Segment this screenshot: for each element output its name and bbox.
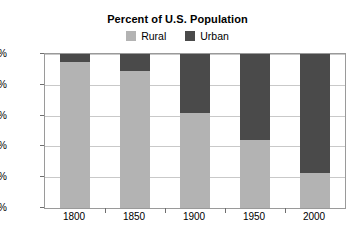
legend-item-urban[interactable]: Urban bbox=[185, 31, 229, 42]
stacked-bar[interactable] bbox=[60, 54, 90, 208]
bar-group-1850[interactable] bbox=[105, 54, 165, 208]
bar-segment-urban[interactable] bbox=[180, 54, 210, 113]
bar-group-1900[interactable] bbox=[165, 54, 225, 208]
y-tick-label: 20% bbox=[0, 171, 7, 182]
bar-segment-urban[interactable] bbox=[60, 54, 90, 62]
chart-container: Percent of U.S. Population Rural Urban 0… bbox=[0, 0, 355, 237]
stacked-bar[interactable] bbox=[120, 54, 150, 208]
plot-area bbox=[44, 53, 346, 209]
bar-series-group bbox=[45, 54, 345, 208]
x-tick-label-1950: 1950 bbox=[224, 211, 284, 222]
y-tick-label: 60% bbox=[0, 109, 7, 120]
chart-legend: Rural Urban bbox=[0, 31, 355, 42]
x-tick-label-2000: 2000 bbox=[284, 211, 344, 222]
legend-item-rural[interactable]: Rural bbox=[126, 31, 166, 42]
bar-segment-rural[interactable] bbox=[180, 113, 210, 208]
legend-swatch-urban bbox=[185, 31, 195, 41]
legend-swatch-rural bbox=[126, 31, 136, 41]
x-tick-label-1850: 1850 bbox=[104, 211, 164, 222]
bar-group-1800[interactable] bbox=[45, 54, 105, 208]
bar-group-1950[interactable] bbox=[225, 54, 285, 208]
bar-segment-urban[interactable] bbox=[240, 54, 270, 140]
stacked-bar[interactable] bbox=[180, 54, 210, 208]
chart-title: Percent of U.S. Population bbox=[0, 13, 355, 25]
bar-group-2000[interactable] bbox=[285, 54, 345, 208]
bar-segment-rural[interactable] bbox=[120, 71, 150, 208]
legend-label-rural: Rural bbox=[141, 31, 166, 42]
y-tick-label: 40% bbox=[0, 140, 7, 151]
x-tick-label-1900: 1900 bbox=[164, 211, 224, 222]
stacked-bar[interactable] bbox=[300, 54, 330, 208]
bar-segment-urban[interactable] bbox=[120, 54, 150, 71]
y-tick-label: 80% bbox=[0, 78, 7, 89]
bar-segment-rural[interactable] bbox=[300, 173, 330, 208]
bar-segment-rural[interactable] bbox=[240, 140, 270, 208]
y-tick-label: 100% bbox=[0, 48, 7, 59]
bar-segment-rural[interactable] bbox=[60, 62, 90, 208]
y-tick-label: 0% bbox=[0, 202, 7, 213]
stacked-bar[interactable] bbox=[240, 54, 270, 208]
legend-label-urban: Urban bbox=[200, 31, 229, 42]
x-tick-label-1800: 1800 bbox=[44, 211, 104, 222]
bar-segment-urban[interactable] bbox=[300, 54, 330, 173]
